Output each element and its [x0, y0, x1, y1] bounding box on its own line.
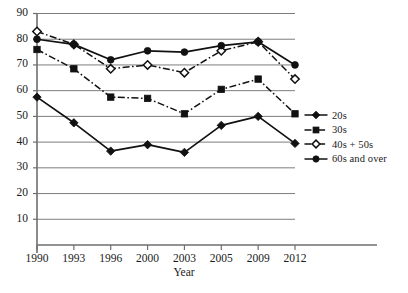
y-tick-label: 30	[2, 160, 28, 172]
data-point-marker	[312, 111, 320, 119]
legend-label: 60s and over	[329, 153, 387, 164]
data-point-marker	[292, 111, 298, 117]
legend-marker-filled-diamond-icon	[303, 108, 329, 122]
x-tick-label: 2009	[238, 252, 278, 264]
x-axis-title: Year	[124, 266, 244, 278]
legend-label: 30s	[329, 124, 347, 135]
legend-item: 60s and over	[303, 152, 407, 167]
x-tick-label: 1993	[54, 252, 94, 264]
legend-marker-filled-circle-icon	[303, 152, 329, 166]
data-point-marker	[312, 140, 320, 148]
y-tick-label: 50	[2, 109, 28, 121]
data-point-marker	[218, 86, 224, 92]
x-tick-label: 2005	[201, 252, 241, 264]
y-tick-label: 20	[2, 186, 28, 198]
data-point-marker	[218, 42, 225, 49]
chart-figure: 102030405060708090 199019931996200020032…	[0, 0, 408, 293]
data-point-marker	[144, 47, 151, 54]
x-tick-label: 2012	[275, 252, 315, 264]
y-tick-label: 90	[2, 6, 28, 18]
data-point-marker	[107, 56, 114, 63]
data-point-marker	[181, 111, 187, 117]
data-point-marker	[292, 62, 299, 69]
data-point-marker	[71, 66, 77, 72]
legend-marker-filled-square-icon	[303, 123, 329, 137]
data-point-marker	[255, 76, 261, 82]
y-tick-label: 60	[2, 83, 28, 95]
legend-label: 20s	[329, 110, 347, 121]
data-point-marker	[181, 49, 188, 56]
data-point-marker	[255, 38, 262, 45]
legend-item: 30s	[303, 123, 407, 138]
data-point-marker	[143, 61, 151, 69]
data-point-marker	[313, 127, 319, 133]
legend-item: 40s + 50s	[303, 137, 407, 152]
y-tick-label: 70	[2, 57, 28, 69]
data-point-marker	[33, 27, 41, 35]
x-tick-label: 1996	[91, 252, 131, 264]
y-tick-label: 80	[2, 32, 28, 44]
data-point-marker	[107, 65, 115, 73]
legend-item: 20s	[303, 108, 407, 123]
data-point-marker	[70, 41, 77, 48]
x-tick-label: 2000	[128, 252, 168, 264]
y-tick-label: 40	[2, 135, 28, 147]
legend-label: 40s + 50s	[329, 139, 373, 150]
data-point-marker	[313, 156, 319, 162]
chart-legend: 20s30s40s + 50s60s and over	[303, 108, 407, 166]
y-tick-label: 10	[2, 212, 28, 224]
legend-marker-open-diamond-icon	[303, 137, 329, 151]
x-tick-label: 1990	[17, 252, 57, 264]
data-point-marker	[34, 46, 40, 52]
data-point-marker	[144, 95, 150, 101]
data-point-marker	[108, 94, 114, 100]
data-point-marker	[180, 68, 188, 76]
x-tick-label: 2003	[164, 252, 204, 264]
data-point-marker	[34, 36, 41, 43]
